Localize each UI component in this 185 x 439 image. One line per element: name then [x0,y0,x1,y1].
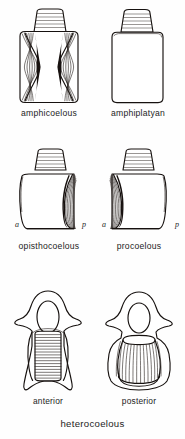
vertebra-figure-plate: amphicoelous amphiplatyan [0,0,185,439]
figure-amphicoelous: amphicoelous [6,4,92,124]
amphiplatyan-drawing [94,4,182,108]
figure-heterocoelous-anterior: anterior [4,288,92,418]
axis-mark-anterior-opisthocoelous: a [15,220,19,229]
heterocoelous-anterior-drawing [4,288,92,396]
procoelous-drawing [96,146,182,241]
amphicoelous-drawing [6,4,92,108]
caption-heterocoelous-anterior: anterior [4,396,92,406]
axis-mark-anterior-procoelous: a [102,220,106,229]
figure-heterocoelous-posterior: posterior [95,288,183,418]
caption-opisthocoelous: opisthocoelous [6,241,92,251]
axis-mark-posterior-opisthocoelous: p [82,220,86,229]
caption-amphiplatyan: amphiplatyan [94,108,182,118]
axis-mark-posterior-procoelous: p [175,220,179,229]
caption-amphicoelous: amphicoelous [6,108,92,118]
figure-opisthocoelous: a p opisthocoelous [6,146,92,261]
caption-procoelous: procoelous [96,241,182,251]
heterocoelous-posterior-drawing [95,288,183,396]
figure-amphiplatyan: amphiplatyan [94,4,182,124]
figure-procoelous: a p procoelous [96,146,182,261]
caption-heterocoelous-posterior: posterior [95,396,183,406]
caption-heterocoelous-group: heterocoelous [0,418,185,429]
